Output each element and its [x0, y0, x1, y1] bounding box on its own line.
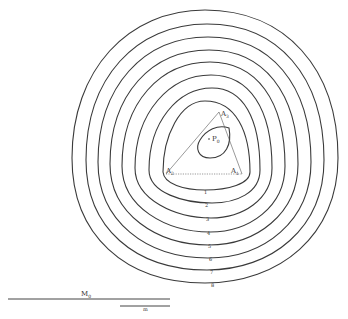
ring-label-1: 1 [204, 189, 207, 195]
level-curve-5 [110, 50, 298, 245]
vertex-a3-label: A3 [220, 110, 229, 119]
triangle-edge-a2-a3 [166, 112, 219, 174]
level-curve-6 [98, 37, 311, 258]
vertex-a2-label: A2 [165, 167, 174, 176]
level-curve-3 [135, 75, 272, 218]
ring-label-6: 6 [209, 256, 212, 262]
level-curve-4 [122, 62, 285, 232]
vertex-a1-label: A1 [230, 167, 239, 176]
ring-label-7: 7 [210, 269, 213, 275]
level-curve-8 [72, 10, 338, 283]
ring-label-4: 4 [207, 230, 210, 236]
ring-label-8: 8 [211, 282, 214, 288]
level-curve-7 [86, 24, 324, 270]
ring-label-3: 3 [206, 216, 209, 222]
level-curve-1 [163, 101, 250, 190]
point-p0-label: P0 [212, 135, 220, 144]
ring-label-2: 2 [205, 202, 208, 208]
scale-bar-m-label: m [143, 306, 148, 312]
level-curves-diagram: A3 A2 A1 P0 1 2 3 4 5 6 7 8 M0 m [0, 0, 348, 319]
scale-bar-m0-label: M0 [81, 290, 91, 299]
ring-label-5: 5 [208, 243, 211, 249]
point-p0-dot [208, 138, 210, 140]
